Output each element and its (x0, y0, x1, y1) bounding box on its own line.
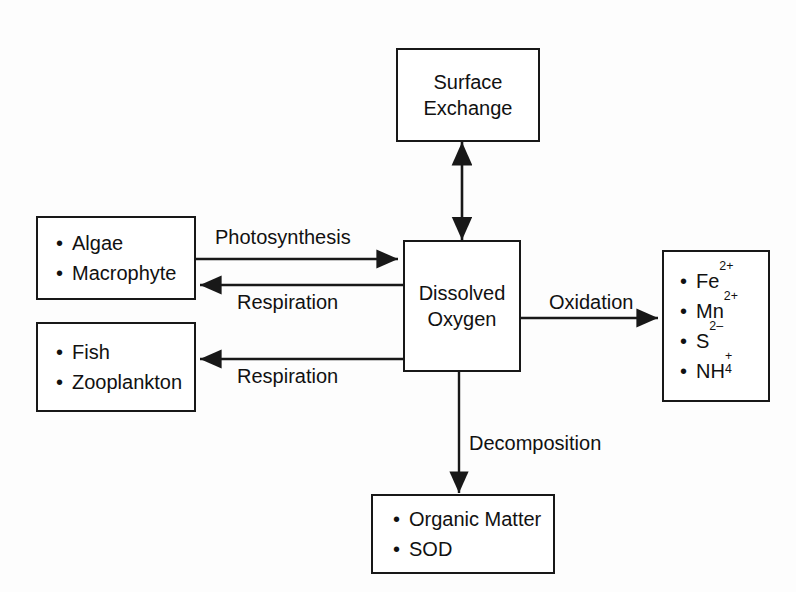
bullet-icon: • (680, 296, 696, 326)
edge-label-animal-respiration: Respiration (237, 365, 338, 388)
list-item-label: SOD (409, 534, 452, 564)
list-item-label: S 2– (696, 326, 709, 356)
edge-label-photosynthesis: Photosynthesis (215, 226, 351, 249)
bullet-icon: • (393, 534, 409, 564)
node-dissolved-oxygen-line-2: Oxygen (428, 306, 497, 332)
edge-label-plant-respiration: Respiration (237, 291, 338, 314)
ion-charge: 2+ (724, 290, 738, 302)
list-item: • Fish (56, 337, 194, 367)
bullet-icon: • (56, 258, 72, 288)
bullet-icon: • (56, 337, 72, 367)
bullet-icon: • (393, 504, 409, 534)
ion-base: Fe (696, 270, 719, 292)
edge-label-oxidation: Oxidation (549, 291, 634, 314)
node-surface-exchange-line-1: Surface (434, 69, 503, 95)
node-surface-exchange-line-2: Exchange (424, 95, 513, 121)
ion-base: S (696, 330, 709, 352)
list-item-label: Fish (72, 337, 110, 367)
list-item-label: Algae (72, 228, 123, 258)
list-item-label: Fe 2+ (696, 266, 719, 296)
list-item: • Algae (56, 228, 194, 258)
list-item: • Macrophyte (56, 258, 194, 288)
bullet-icon: • (680, 266, 696, 296)
node-surface-exchange[interactable]: Surface Exchange (396, 48, 540, 142)
node-dissolved-oxygen-line-1: Dissolved (419, 280, 506, 306)
diagram-canvas: Surface Exchange Dissolved Oxygen • Alga… (0, 0, 796, 592)
list-item: • Zooplankton (56, 367, 194, 397)
list-item-label: Organic Matter (409, 504, 541, 534)
list-item: • Mn 2+ (680, 296, 768, 326)
ion-charge: 2+ (719, 260, 733, 272)
ion-charge: + (725, 350, 732, 362)
list-item-label: Zooplankton (72, 367, 182, 397)
bullet-icon: • (680, 356, 696, 386)
bullet-icon: • (56, 367, 72, 397)
ion-subscript: 4 (725, 363, 732, 375)
ion-charge: 2– (709, 320, 723, 332)
list-item: • NH + 4 (680, 356, 768, 386)
bullet-icon: • (56, 228, 72, 258)
list-item-label: NH + 4 (696, 356, 725, 386)
list-item: • SOD (393, 534, 553, 564)
node-dissolved-oxygen[interactable]: Dissolved Oxygen (403, 240, 521, 372)
bullet-icon: • (680, 326, 696, 356)
edge-label-decomposition: Decomposition (469, 432, 601, 455)
node-primary-producers[interactable]: • Algae • Macrophyte (36, 216, 196, 300)
node-consumers[interactable]: • Fish • Zooplankton (36, 322, 196, 412)
ion-base: NH (696, 360, 725, 382)
node-reduced-species[interactable]: • Fe 2+ • Mn 2+ • S 2– • NH + 4 (662, 250, 770, 402)
list-item-label: Macrophyte (72, 258, 177, 288)
list-item: • Organic Matter (393, 504, 553, 534)
node-sediment-demand[interactable]: • Organic Matter • SOD (371, 494, 555, 574)
